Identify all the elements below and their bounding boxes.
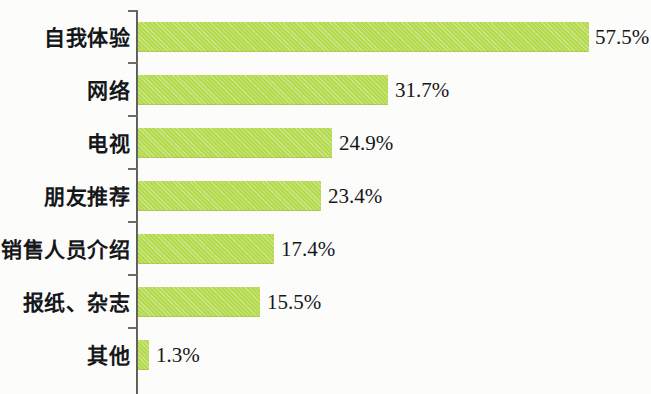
bar-row: 其他 1.3%	[0, 328, 651, 381]
value-label: 23.4%	[328, 185, 382, 206]
bar-row: 朋友推荐 23.4%	[0, 169, 651, 222]
bar	[138, 340, 149, 370]
bar	[138, 128, 332, 158]
bar-row: 销售人员介绍 17.4%	[0, 222, 651, 275]
bar-row: 自我体验 57.5%	[0, 10, 651, 63]
bar-row: 报纸、杂志 15.5%	[0, 275, 651, 328]
category-label: 网络	[87, 79, 130, 100]
bar-row: 网络 31.7%	[0, 63, 651, 116]
value-label: 17.4%	[281, 238, 335, 259]
bar	[138, 181, 321, 211]
category-label: 销售人员介绍	[1, 238, 130, 259]
plot-area: 自我体验 57.5% 网络 31.7% 电视 24.9% 朋友推荐 23.4% …	[0, 0, 651, 394]
value-label: 57.5%	[595, 26, 649, 47]
value-label: 1.3%	[156, 344, 200, 365]
value-label: 15.5%	[267, 291, 321, 312]
bar-chart: 自我体验 57.5% 网络 31.7% 电视 24.9% 朋友推荐 23.4% …	[0, 0, 651, 394]
bar	[138, 287, 260, 317]
value-label: 24.9%	[339, 132, 393, 153]
category-label: 其他	[87, 344, 130, 365]
bar	[138, 75, 388, 105]
category-label: 朋友推荐	[44, 185, 130, 206]
bar	[138, 234, 274, 264]
category-label: 自我体验	[44, 26, 130, 47]
value-label: 31.7%	[395, 79, 449, 100]
bar-row: 电视 24.9%	[0, 116, 651, 169]
category-label: 报纸、杂志	[23, 291, 131, 312]
bar	[138, 22, 589, 52]
category-label: 电视	[87, 132, 130, 153]
